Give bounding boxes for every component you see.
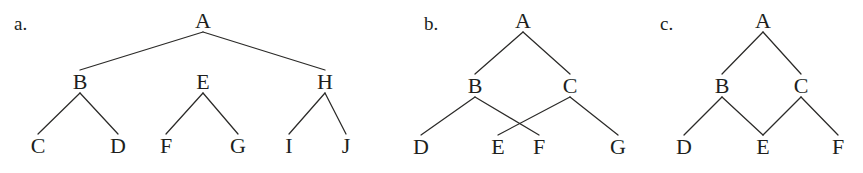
edge-C-F <box>801 97 838 135</box>
panel-c-edges <box>0 0 863 173</box>
edge-B-D <box>684 97 722 135</box>
edge-A-C <box>763 32 801 74</box>
edge-B-E <box>722 97 763 135</box>
panel-c-node-F: F <box>832 136 844 158</box>
edge-A-B <box>722 32 763 74</box>
panel-c-node-D: D <box>676 136 692 158</box>
panel-c: c.ABCDEF <box>0 0 863 173</box>
panel-c-node-C: C <box>794 75 809 97</box>
edge-C-E <box>763 97 801 135</box>
panel-c-label: c. <box>660 14 673 33</box>
panel-c-node-E: E <box>756 136 769 158</box>
figure-root: a.ABEHCDFGIJb.ABCDEFGc.ABCDEF <box>0 0 863 173</box>
panel-c-node-B: B <box>715 75 730 97</box>
panel-c-node-A: A <box>755 10 771 32</box>
